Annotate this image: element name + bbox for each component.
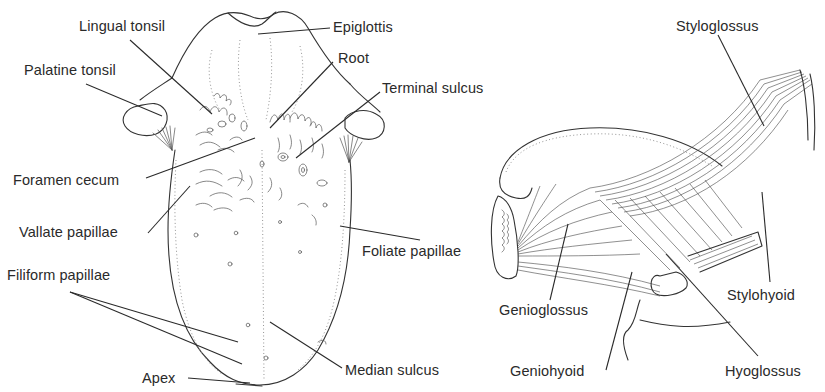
label-hyoglossus: Hyoglossus: [725, 363, 801, 379]
label-terminal-sulcus: Terminal sulcus: [382, 80, 483, 96]
label-root: Root: [338, 50, 369, 66]
label-foliate-papillae: Foliate papillae: [362, 243, 461, 259]
label-epiglottis: Epiglottis: [333, 19, 393, 35]
label-genioglossus: Genioglossus: [499, 302, 588, 318]
label-median-sulcus: Median sulcus: [345, 362, 439, 378]
label-foramen-cecum: Foramen cecum: [13, 172, 119, 188]
tongue-anatomy-figure: Lingual tonsil Epiglottis Palatine tonsi…: [0, 0, 825, 392]
label-vallate-papillae: Vallate papillae: [19, 224, 118, 240]
label-styloglossus: Styloglossus: [676, 18, 759, 34]
label-apex: Apex: [142, 370, 175, 386]
label-lingual-tonsil: Lingual tonsil: [79, 18, 165, 34]
label-geniohyoid: Geniohyoid: [510, 363, 584, 379]
label-stylohyoid: Stylohyoid: [727, 287, 795, 303]
dorsal-tongue-drawing: [123, 12, 384, 386]
label-filiform-papillae: Filiform papillae: [7, 267, 110, 283]
anatomy-illustration: [0, 0, 825, 392]
label-palatine-tonsil: Palatine tonsil: [24, 62, 116, 78]
